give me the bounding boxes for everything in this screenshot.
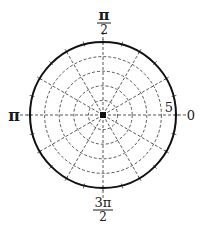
- label-half-pi: π 2: [97, 6, 111, 37]
- polar-grid-diagram: π 2 3π 2 π 0 5: [0, 0, 208, 233]
- grid-spoke: [67, 52, 104, 115]
- grid-spoke: [103, 52, 140, 115]
- grid-spoke: [67, 115, 104, 178]
- grid-spoke: [103, 115, 166, 152]
- label-three-half-pi-denominator: 2: [99, 210, 107, 224]
- label-pi: π: [8, 106, 20, 125]
- grid-spoke: [103, 79, 166, 116]
- grid-spoke: [103, 115, 140, 178]
- origin-point: [100, 112, 106, 118]
- label-radius-five: 5: [165, 100, 173, 115]
- label-half-pi-denominator: 2: [100, 23, 108, 37]
- grid-spoke: [40, 115, 103, 152]
- label-three-half-pi: 3π 2: [93, 195, 113, 224]
- label-half-pi-numerator: π: [99, 6, 110, 24]
- label-zero: 0: [187, 108, 195, 123]
- label-three-half-pi-numerator: 3π: [95, 195, 112, 210]
- grid-spoke: [40, 79, 103, 116]
